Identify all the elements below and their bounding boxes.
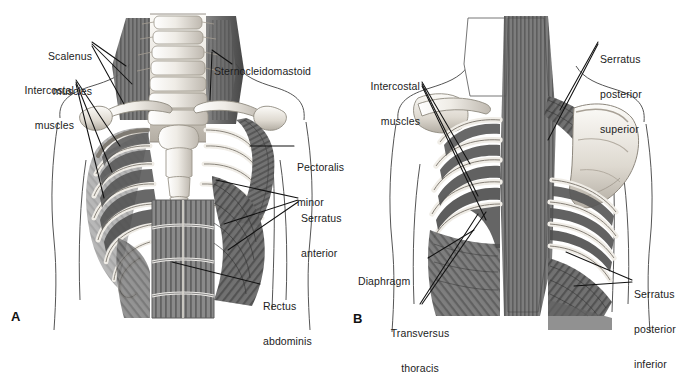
label-spi-line2: posterior — [634, 324, 676, 336]
label-intercostal-muscles-a: Intercostal muscles — [4, 61, 74, 144]
label-intercostal-a-line1: Intercostal — [4, 85, 74, 97]
label-intercostal-b-line1: Intercostal — [350, 81, 420, 93]
label-rectus-line1: Rectus — [263, 301, 312, 313]
label-diaphragm: Diaphragm — [358, 252, 410, 299]
label-spi-line3: inferior — [634, 359, 676, 371]
label-rectus-line2: abdominis — [263, 336, 312, 348]
label-sps-line2: posterior — [600, 89, 642, 101]
panel-letter-a: A — [11, 309, 20, 324]
deep-back-muscle-column — [500, 16, 556, 316]
label-pectoralis-line1: Pectoralis — [297, 162, 344, 174]
panel-letter-b: B — [353, 311, 362, 326]
label-sps-line1: Serratus — [600, 54, 642, 66]
label-transversus-line1: Transversus — [376, 328, 464, 340]
label-serratus-anterior-line2: anterior — [301, 248, 341, 260]
label-sternocleidomastoid: Sternocleidomastoid — [214, 42, 311, 89]
label-intercostal-muscles-b: Intercostal muscles — [350, 57, 420, 140]
label-sps-line3: superior — [600, 124, 642, 136]
label-intercostal-b-line2: muscles — [350, 116, 420, 128]
label-rectus-abdominis: Rectus abdominis — [263, 277, 312, 360]
label-transversus-line2: thoracis — [376, 363, 464, 375]
label-sternocleidomastoid-text: Sternocleidomastoid — [214, 66, 311, 78]
label-transversus-thoracis: Transversus thoracis — [376, 304, 464, 376]
label-intercostal-a-line2: muscles — [4, 120, 74, 132]
rectus-abdominis-muscle — [152, 200, 214, 318]
label-serratus-anterior: Serratus anterior — [301, 189, 341, 272]
label-diaphragm-text: Diaphragm — [358, 276, 410, 288]
label-serratus-posterior-inferior: Serratus posterior inferior — [634, 265, 676, 376]
label-serratus-anterior-line1: Serratus — [301, 213, 341, 225]
label-serratus-posterior-superior: Serratus posterior superior — [600, 30, 642, 148]
label-spi-line1: Serratus — [634, 289, 676, 301]
